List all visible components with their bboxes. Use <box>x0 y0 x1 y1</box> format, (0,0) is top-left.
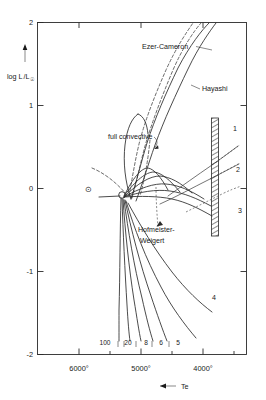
y-axis-title: log L/L☉ <box>7 72 35 82</box>
x-tick-label-4000: 4000° <box>193 364 212 373</box>
sun-symbol-marker: ⊙ <box>85 185 92 194</box>
track-dashed-left <box>92 168 127 195</box>
annotation-hayashi: Hayashi <box>202 85 228 93</box>
y-tick-label-neg2: -2 <box>26 350 33 359</box>
mass-label-20: 20 <box>124 339 132 346</box>
x-axis-ticks <box>79 23 234 355</box>
y-tick-label-2: 2 <box>29 18 33 27</box>
annotation-ezer-cameron: Ezer-Cameron <box>142 43 188 51</box>
track-hw-1 <box>124 196 212 216</box>
mass-label-100: 100 <box>99 339 110 346</box>
track-full-convective-tip <box>138 114 148 134</box>
curve-label-1: 1 <box>233 125 237 133</box>
hr-diagram-figure: 2 1 0 -1 -2 6000° 5000° 4000° Te log L/L… <box>0 0 266 400</box>
y-tick-label-0: 0 <box>29 184 33 193</box>
annotation-weigert: Weigert <box>140 237 164 245</box>
track-mass-100 <box>119 198 121 341</box>
x-axis-title-group: Te <box>160 382 189 391</box>
leader-hofmeister <box>156 186 158 227</box>
curve-label-3: 3 <box>238 207 242 215</box>
chart-svg: 2 1 0 -1 -2 6000° 5000° 4000° Te log L/L… <box>0 0 266 400</box>
x-axis-title: Te <box>181 382 189 391</box>
curve-label-2: 2 <box>236 166 240 174</box>
y-tick-label-neg1: -1 <box>26 267 33 276</box>
y-axis-title-group: log L/L☉ <box>7 44 35 82</box>
annotation-full-convective: full convective <box>108 133 153 141</box>
x-axis-arrow-icon <box>160 384 166 389</box>
track-mass-5 <box>125 200 167 341</box>
y-axis-arrow-icon <box>23 44 28 50</box>
mass-label-6: 6 <box>159 339 163 346</box>
x-tick-label-5000: 5000° <box>131 364 150 373</box>
track-left-stub <box>99 196 120 197</box>
x-tick-label-6000: 6000° <box>69 364 88 373</box>
track-mass-20 <box>122 199 130 341</box>
mass-label-8: 8 <box>144 339 148 346</box>
track-4 <box>128 203 212 312</box>
annotation-hofmeister: Hofmeister- <box>138 226 175 234</box>
y-tick-label-1: 1 <box>29 101 33 110</box>
curve-label-4: 4 <box>212 294 216 302</box>
hatched-band <box>212 118 219 236</box>
mass-label-5: 5 <box>176 339 180 346</box>
leader-hayashi <box>191 85 200 89</box>
